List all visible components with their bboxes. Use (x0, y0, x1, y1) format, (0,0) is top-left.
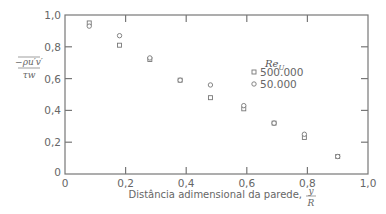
x-tick-label: 0 (62, 177, 69, 189)
circle-marker (178, 78, 182, 82)
x-tick-label: 1,0 (360, 177, 377, 189)
x-axis-ticks: 00,20,40,60,81,0 (62, 15, 377, 189)
data-points (87, 21, 340, 159)
x-tick-label: 0,2 (117, 177, 134, 189)
scatter-chart: 00,20,40,60,81,0 00,20,40,60,81,0 −ρu′v′… (0, 0, 386, 214)
circle-marker (336, 154, 340, 158)
circle-marker (302, 132, 306, 136)
x-label-text: Distância adimensional da parede, (128, 189, 302, 200)
square-marker (118, 43, 122, 47)
circle-marker (117, 33, 121, 37)
x-label-frac-num: y (307, 186, 314, 196)
y-label-denominator: τw (23, 70, 36, 80)
legend-label-500000: 500.000 (260, 66, 303, 78)
y-tick-label: 0,4 (44, 104, 61, 116)
y-tick-label: 0,2 (44, 136, 61, 148)
legend-circle-icon (252, 82, 256, 86)
legend-label-50000: 50.000 (260, 78, 297, 90)
square-marker (208, 96, 212, 100)
circle-marker (208, 83, 212, 87)
y-axis-ticks: 00,20,40,60,81,0 (44, 9, 368, 178)
x-label-frac-den: R (307, 198, 315, 208)
x-tick-label: 0,6 (238, 177, 255, 189)
circle-marker (148, 56, 152, 60)
x-tick-label: 0,4 (178, 177, 195, 189)
y-axis-label: −ρu′v′ τw (15, 57, 43, 80)
plot-frame (65, 15, 368, 174)
circle-marker (87, 24, 91, 28)
y-label-numerator: −ρu′v′ (15, 57, 43, 67)
y-tick-label: 0,8 (44, 41, 61, 53)
circle-marker (242, 103, 246, 107)
circle-marker (272, 121, 276, 125)
y-tick-label: 0 (54, 166, 61, 178)
y-tick-label: 1,0 (44, 9, 61, 21)
x-axis-label: Distância adimensional da parede, y R (128, 186, 316, 208)
legend: ReU 500.000 50.000 (252, 58, 304, 90)
y-tick-label: 0,6 (44, 73, 61, 85)
legend-square-icon (252, 70, 256, 74)
plot-border (65, 15, 368, 174)
